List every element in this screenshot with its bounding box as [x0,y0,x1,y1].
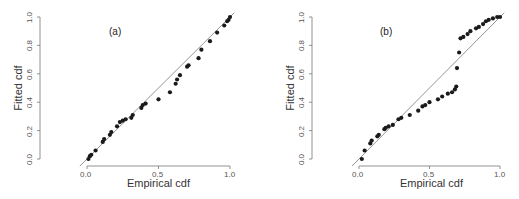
x-tick-label: 1.0 [224,170,235,179]
data-point [377,133,381,137]
data-point [109,130,113,134]
data-point [423,103,427,107]
data-point [93,148,97,152]
data-point [461,35,465,39]
data-point [144,102,148,106]
data-point [416,109,420,113]
data-point [391,123,395,127]
data-point [124,117,128,121]
scatter-plot-a [0,0,260,199]
y-axis-label: Fitted cdf [284,58,296,118]
data-point [370,138,374,142]
data-point [156,97,160,101]
data-point [174,82,178,86]
data-point [186,63,190,67]
data-point [454,84,458,88]
y-tick-label: 0.4 [25,97,34,108]
x-tick-label: 0.0 [352,170,363,179]
panel-tag: (b) [380,26,392,37]
y-tick-label: 1.0 [297,12,306,23]
data-point [436,97,440,101]
y-tick-label: 0.0 [297,154,306,165]
data-point [115,124,119,128]
data-point [175,77,179,81]
data-point [457,50,461,54]
x-tick-label: 0.5 [423,170,434,179]
y-tick-label: 0.2 [297,126,306,137]
y-axis-label: Fitted cdf [12,58,24,118]
panel-b: (b) Fitted cdf Empirical cdf 0.0 0.5 1.0… [260,0,519,199]
y-tick-label: 0.6 [297,69,306,80]
y-tick-label: 0.0 [25,154,34,165]
data-point [427,100,431,104]
data-point [468,29,472,33]
data-point [363,148,367,152]
data-point [360,157,364,161]
data-point [387,124,391,128]
y-tick-label: 0.8 [25,40,34,51]
y-tick-label: 0.8 [297,40,306,51]
data-point [408,113,412,117]
data-point [102,137,106,141]
data-point [89,153,93,157]
data-point [215,31,219,35]
x-tick-label: 1.0 [494,170,505,179]
y-tick-label: 0.6 [25,69,34,80]
data-point [491,16,495,20]
data-point [178,73,182,77]
data-point [196,56,200,60]
y-tick-label: 0.4 [297,97,306,108]
y-tick-label: 0.2 [25,126,34,137]
data-point [455,66,459,70]
panel-tag: (a) [109,26,121,37]
data-point [228,15,232,19]
data-point [222,23,226,27]
data-point [208,39,212,43]
x-tick-label: 0.5 [152,170,163,179]
y-tick-label: 1.0 [25,12,34,23]
data-point [168,90,172,94]
panel-a: (a) Fitted cdf Empirical cdf 0.0 0.5 1.0… [0,0,260,199]
data-point [446,92,450,96]
x-tick-label: 0.0 [80,170,91,179]
data-point [440,94,444,98]
data-point [131,113,135,117]
data-point [399,116,403,120]
data-point [477,25,481,29]
data-point [199,48,203,52]
data-point [487,18,491,22]
data-point [498,15,502,19]
